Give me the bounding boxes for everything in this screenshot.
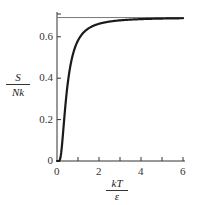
x-tick-label: 6	[180, 166, 186, 177]
y-tick-label: 0.6	[39, 31, 53, 42]
y-axis-label-denominator: Nk	[6, 85, 30, 98]
y-tick-label: 0.4	[39, 72, 53, 83]
y-axis-label: S Nk	[6, 72, 30, 98]
y-axis-label-numerator: S	[6, 72, 30, 85]
x-tick-label: 2	[96, 166, 102, 177]
x-axis-label-denominator: ε	[106, 191, 128, 202]
y-tick-label: 0	[48, 155, 54, 166]
x-axis-label: kT ε	[106, 178, 128, 202]
x-tick-label: 0	[54, 166, 60, 177]
y-tick-label: 0.2	[39, 114, 53, 125]
axes	[57, 12, 185, 161]
entropy-curve	[57, 18, 183, 161]
x-tick-label: 4	[138, 166, 144, 177]
